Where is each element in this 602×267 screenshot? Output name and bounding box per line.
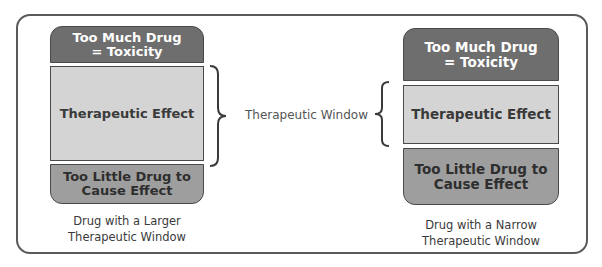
left-therapeutic-box: Therapeutic Effect [50,66,204,161]
left-toxicity-label: Too Much Drug = Toxicity [67,31,187,58]
right-toxicity-box: Too Much Drug = Toxicity [403,28,559,81]
right-too-little-label: Too Little Drug to Cause Effect [414,162,549,190]
right-caption-line2: Therapeutic Window [403,234,559,250]
right-brace-path [375,82,389,146]
left-brace [208,64,238,168]
left-caption-line2: Therapeutic Window [50,230,204,246]
right-caption-line1: Drug with a Narrow [403,218,559,234]
left-caption-line1: Drug with a Larger [50,214,204,230]
left-therapeutic-label: Therapeutic Effect [60,107,195,121]
right-brace [373,80,393,148]
left-toxicity-box: Too Much Drug = Toxicity [50,26,204,63]
right-caption: Drug with a Narrow Therapeutic Window [403,218,559,249]
left-caption: Drug with a Larger Therapeutic Window [50,214,204,245]
therapeutic-window-label: Therapeutic Window [245,108,368,122]
left-too-little-label: Too Little Drug to Cause Effect [62,170,192,197]
left-too-little-box: Too Little Drug to Cause Effect [50,164,204,204]
right-therapeutic-box: Therapeutic Effect [403,85,559,144]
right-too-little-box: Too Little Drug to Cause Effect [403,148,559,205]
left-brace-path [210,66,226,166]
right-therapeutic-label: Therapeutic Effect [411,107,551,121]
right-toxicity-label: Too Much Drug = Toxicity [419,40,544,68]
